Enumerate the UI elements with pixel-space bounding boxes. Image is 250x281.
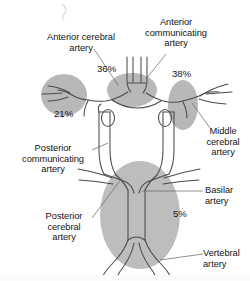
leader-acom xyxy=(146,54,166,79)
leader-pcom xyxy=(92,143,108,150)
label-anterior-cerebral-artery: Anterior cerebral artery xyxy=(33,32,129,53)
scan-artifact xyxy=(62,4,66,20)
pca-left-wing-lower xyxy=(79,180,113,184)
pcom-left-inner xyxy=(110,112,116,175)
pcom-right-inner xyxy=(157,112,163,175)
pcom-left-lateral xyxy=(98,104,101,112)
circle-of-willis-figure: .vessel { fill: none; stroke: #4a4a4a; s… xyxy=(0,0,250,281)
label-posterior-cerebral-artery: Posterior cerebral artery xyxy=(36,211,92,243)
percentage-basilar: 5% xyxy=(173,209,187,220)
label-vertebral-artery: Vertebral artery xyxy=(203,248,250,269)
percentage-anterior-cerebral: 36% xyxy=(97,64,116,75)
label-posterior-communicating-artery: Posterior communicating artery xyxy=(14,143,92,175)
label-middle-cerebral-artery: Middle cerebral artery xyxy=(198,126,248,158)
percentage-anterior-communicating: 38% xyxy=(172,69,191,80)
label-basilar-artery: Basilar artery xyxy=(205,185,250,206)
mca-right-branch-lower xyxy=(199,99,226,104)
bottom-edge-strip xyxy=(0,275,250,281)
percentage-middle-cerebral: 21% xyxy=(54,109,73,120)
label-anterior-communicating-artery: Anterior communicating artery xyxy=(133,17,219,49)
